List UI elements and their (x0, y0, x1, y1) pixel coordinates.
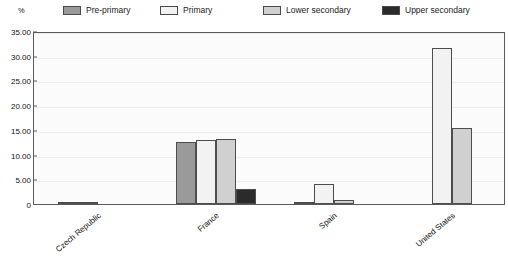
y-axis-tick-label: 30.00 (1, 52, 31, 61)
legend-item-primary[interactable]: Primary (160, 3, 212, 17)
legend-item-label: Upper secondary (405, 5, 470, 15)
x-axis-tick-label: France (138, 211, 220, 260)
bar (176, 142, 196, 204)
bar (196, 140, 216, 204)
y-axis-tick-mark (33, 130, 37, 131)
chart-legend: Pre-primaryPrimaryLower secondaryUpper s… (0, 0, 508, 22)
x-axis-tick-label: Czech Republic (20, 211, 102, 260)
bar (294, 202, 314, 204)
plot-area (33, 32, 505, 205)
bar (432, 48, 452, 204)
gridline (34, 33, 504, 34)
legend-item-lower-secondary[interactable]: Lower secondary (263, 3, 351, 17)
bar-chart: Pre-primaryPrimaryLower secondaryUpper s… (0, 0, 508, 260)
legend-swatch-icon (160, 6, 178, 15)
bar (216, 139, 236, 204)
x-axis-tick-label: United States (374, 211, 456, 260)
bar (236, 189, 256, 204)
y-axis-tick-label: 5.00 (1, 176, 31, 185)
bar (58, 202, 78, 204)
legend-item-upper-secondary[interactable]: Upper secondary (382, 3, 470, 17)
y-axis-tick-mark (33, 106, 37, 107)
y-axis-tick-label: 35.00 (1, 28, 31, 37)
y-axis-tick-label: 25.00 (1, 77, 31, 86)
y-axis-tick-mark (33, 56, 37, 57)
x-axis-tick-label: Spain (256, 211, 338, 260)
y-axis-tick-mark (33, 32, 37, 33)
legend-item-label: Pre-primary (86, 5, 130, 15)
legend-item-label: Primary (183, 5, 212, 15)
y-axis-tick-mark (33, 81, 37, 82)
legend-swatch-icon (63, 6, 81, 15)
bar (314, 184, 334, 204)
y-axis-tick-label: 20.00 (1, 102, 31, 111)
bar (78, 202, 98, 204)
legend-swatch-icon (263, 6, 281, 15)
y-axis-tick-label: 10.00 (1, 151, 31, 160)
y-axis-tick-label: 15.00 (1, 126, 31, 135)
y-axis-ticks: 05.0010.0015.0020.0025.0030.0035.00 (0, 0, 31, 260)
legend-swatch-icon (382, 6, 400, 15)
y-axis-tick-mark (33, 180, 37, 181)
legend-item-label: Lower secondary (286, 5, 351, 15)
y-axis-tick-mark (33, 155, 37, 156)
y-axis-tick-label: 0 (1, 201, 31, 210)
bar (334, 200, 354, 204)
bar (452, 128, 472, 204)
legend-item-pre-primary[interactable]: Pre-primary (63, 3, 130, 17)
